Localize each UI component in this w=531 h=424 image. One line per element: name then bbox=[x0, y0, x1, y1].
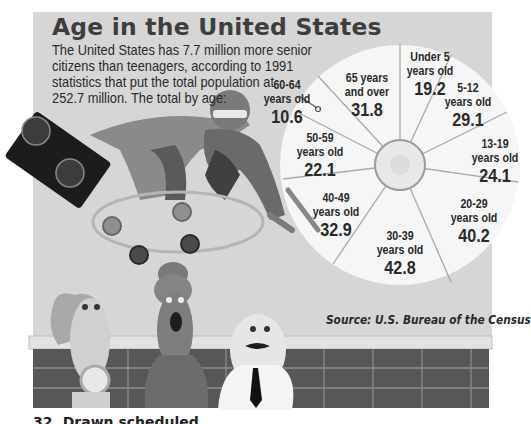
speaker-icon bbox=[56, 159, 84, 187]
slice-label-13-19: 13-19 years old 24.1 bbox=[469, 137, 522, 186]
spectator-woman-middle bbox=[145, 262, 209, 408]
boombox bbox=[4, 111, 111, 210]
pie-hub-center bbox=[390, 155, 410, 175]
slice-label-20-29: 20-29 years old 40.2 bbox=[448, 197, 501, 246]
slice-label-30-39: 30-39 years old 42.8 bbox=[374, 229, 427, 278]
speaker-icon bbox=[22, 117, 50, 145]
page-title: Age in the United States bbox=[52, 14, 382, 40]
intro-line: citizens than teenagers, according to 19… bbox=[52, 58, 316, 74]
source-caption: Source: U.S. Bureau of the Census bbox=[326, 313, 531, 327]
slice-label-65-plus: 65 years and over 31.8 bbox=[340, 71, 394, 120]
slice-label-5-12: 5-12 years old 29.1 bbox=[442, 81, 495, 130]
slice-label-40-49: 40-49 years old 32.9 bbox=[310, 191, 363, 240]
footer-partial-text: 32. Drawn scheduled ... bbox=[33, 414, 220, 424]
intro-line: The United States has 7.7 million more s… bbox=[52, 42, 316, 58]
slice-label-50-59: 50-59 years old 22.1 bbox=[294, 131, 347, 180]
slice-label-60-64: 60-64 years old 10.6 bbox=[262, 78, 311, 127]
